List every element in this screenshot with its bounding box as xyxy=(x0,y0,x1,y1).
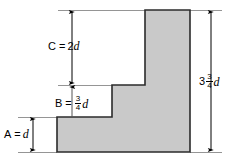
dimension-b-prefix: B xyxy=(55,98,62,109)
dimension-label-b: B = 3 4 d xyxy=(55,95,88,112)
dimension-b-numerator: 3 xyxy=(75,95,81,103)
total-height-coefficient: 3 xyxy=(199,76,205,87)
total-height-variable: d xyxy=(214,76,220,88)
dimension-label-a: A = d xyxy=(4,128,29,140)
dimension-c-prefix: C xyxy=(48,41,56,52)
diagram-canvas: C = 2 d B = 3 4 d A = d 3 3 4 d xyxy=(0,0,230,166)
total-height-numerator: 3 xyxy=(206,73,212,81)
total-height-denominator: 4 xyxy=(206,81,212,90)
dimension-label-total-height: 3 3 4 d xyxy=(199,73,220,90)
total-height-fraction: 3 4 xyxy=(206,73,212,90)
stepped-shape xyxy=(57,10,190,152)
dimension-b-operator: = xyxy=(65,98,71,109)
dimension-label-c: C = 2 d xyxy=(48,40,80,52)
dimension-b-variable: d xyxy=(82,98,88,110)
dimension-b-denominator: 4 xyxy=(75,103,81,112)
diagram-svg xyxy=(0,0,230,166)
dimension-b-fraction: 3 4 xyxy=(75,95,81,112)
dimension-a-variable: d xyxy=(23,128,29,140)
dimension-c-operator: = xyxy=(59,41,65,52)
dimension-a-prefix: A xyxy=(4,129,11,140)
dimension-a-operator: = xyxy=(14,129,20,140)
dimension-c-variable: d xyxy=(74,40,80,52)
